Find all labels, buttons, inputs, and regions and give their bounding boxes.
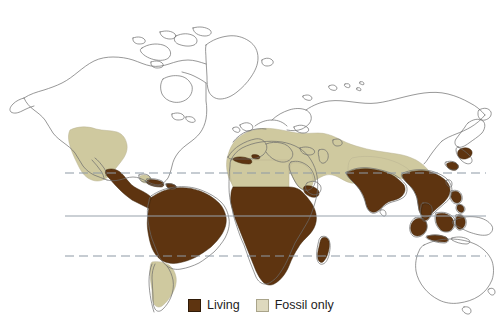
legend-label-fossil-only: Fossil only [275, 299, 334, 312]
world-map-graphic [0, 0, 497, 334]
legend-entry-living: Living [188, 299, 240, 312]
legend-entry-fossil-only: Fossil only [256, 299, 334, 312]
legend-swatch-fossil-only [256, 299, 269, 312]
legend-swatch-living [188, 299, 201, 312]
world-distribution-map [0, 0, 497, 334]
map-legend: Living Fossil only [188, 299, 334, 312]
legend-label-living: Living [207, 299, 240, 312]
